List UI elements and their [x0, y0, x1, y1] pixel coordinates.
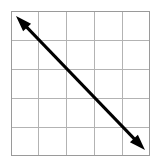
figure-canvas: Diagonal double-headed arrow on a 5 by 5…: [0, 0, 160, 166]
grid-arrow-figure: Diagonal double-headed arrow on a 5 by 5…: [0, 0, 160, 166]
